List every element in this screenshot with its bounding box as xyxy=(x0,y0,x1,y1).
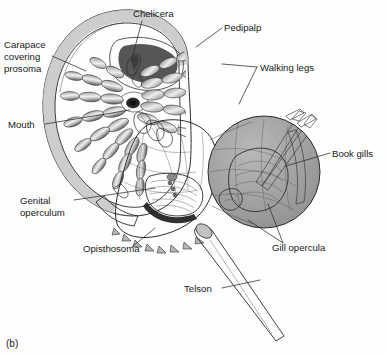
horseshoe-crab-diagram: Carapace covering prosoma Chelicera Pedi… xyxy=(0,0,386,354)
telson xyxy=(193,221,284,341)
book-gill-inset xyxy=(208,109,320,228)
label-walking-legs: Walking legs xyxy=(260,62,314,73)
figure-caption: (b) xyxy=(6,338,18,349)
label-pedipalp: Pedipalp xyxy=(224,22,261,33)
leader-walking-legs xyxy=(222,64,257,104)
label-book-gills: Book gills xyxy=(332,148,373,159)
label-telson: Telson xyxy=(184,283,212,294)
label-opisthosoma: Opisthosoma xyxy=(83,243,140,254)
label-mouth: Mouth xyxy=(8,119,35,130)
label-carapace: Carapace covering prosoma xyxy=(4,39,48,74)
mouth xyxy=(127,98,140,108)
label-chelicera: Chelicera xyxy=(133,8,174,19)
label-gill-opercula: Gill opercula xyxy=(272,242,326,253)
figure-root: Carapace covering prosoma Chelicera Pedi… xyxy=(0,0,386,354)
genital-operculum xyxy=(145,173,202,216)
label-genital-operculum: Genital operculum xyxy=(20,195,65,218)
leader-pedipalp xyxy=(196,28,222,47)
